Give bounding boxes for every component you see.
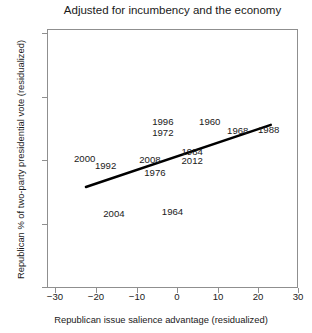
y-tick-mark	[42, 160, 47, 161]
x-tick-label: −20	[76, 292, 116, 302]
data-point-label-2008: 2008	[139, 155, 160, 165]
x-tick-label: 20	[238, 292, 278, 302]
data-point-label-1964: 1964	[162, 207, 183, 217]
data-point-label-1972: 1972	[152, 128, 173, 138]
data-point-label-2000: 2000	[74, 154, 95, 164]
data-point-label-2004: 2004	[103, 209, 124, 219]
y-tick-mark	[42, 33, 47, 34]
y-tick-mark	[42, 224, 47, 225]
page-title: Adjusted for incumbency and the economy	[47, 3, 298, 17]
x-tick-label: −10	[117, 292, 157, 302]
data-point-label-1968: 1968	[227, 126, 248, 136]
data-point-label-1992: 1992	[95, 161, 116, 171]
scatter-plot-figure: Adjusted for incumbency and the economy …	[0, 0, 312, 333]
data-point-label-1988: 1988	[258, 125, 279, 135]
x-tick-label: −30	[35, 292, 75, 302]
x-axis-label: Republican issue salience advantage (res…	[20, 314, 302, 325]
data-point-label-1960: 1960	[199, 117, 220, 127]
y-tick-mark	[42, 287, 47, 288]
x-tick-label: 10	[198, 292, 238, 302]
y-axis-label: Republican % of two-party presidential v…	[15, 24, 26, 296]
data-point-label-2012: 2012	[181, 156, 202, 166]
y-tick-mark	[42, 97, 47, 98]
x-tick-label: 30	[278, 292, 312, 302]
x-tick-label: 0	[157, 292, 197, 302]
data-point-label-1976: 1976	[144, 168, 165, 178]
